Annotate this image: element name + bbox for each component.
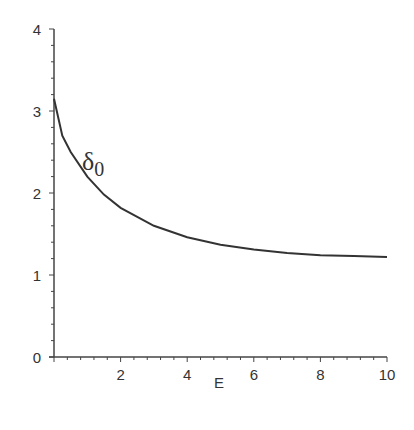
x-tick-label: 8 bbox=[316, 366, 324, 383]
y-tick-label: 1 bbox=[33, 267, 41, 284]
x-tick-label: 4 bbox=[183, 366, 191, 383]
y-axis: 01234 bbox=[33, 21, 54, 366]
x-tick-label: 2 bbox=[116, 366, 124, 383]
y-tick-label: 4 bbox=[33, 21, 41, 38]
x-tick-label: 6 bbox=[250, 366, 258, 383]
y-tick-label: 3 bbox=[33, 103, 41, 120]
y-tick-label: 0 bbox=[33, 349, 41, 366]
y-tick-label: 2 bbox=[33, 185, 41, 202]
x-tick-label: 10 bbox=[379, 366, 396, 383]
line-chart: 01234 246810 E δ0 bbox=[0, 0, 414, 430]
x-axis-label: E bbox=[214, 374, 224, 391]
curve-annotation: δ0 bbox=[82, 147, 104, 180]
